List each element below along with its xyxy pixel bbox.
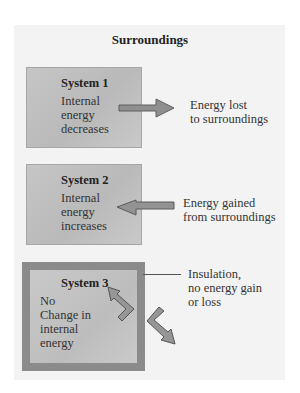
system-3-title: System 3 [61,276,109,291]
energy-lost-label: Energy lost to surroundings [190,98,268,126]
blocked-energy-inner-arrow-icon [106,286,140,324]
energy-gained-label: Energy gained from surroundings [183,196,276,224]
system-2-description: Internal energy increases [61,191,107,233]
system-1-description: Internal energy decreases [61,94,109,136]
system-3-description: No Change in internal energy [40,294,91,350]
system-2-title: System 2 [61,173,109,188]
surroundings-title: Surroundings [0,32,300,48]
system-1-title: System 1 [61,76,109,91]
blocked-energy-outer-arrow-icon [146,306,180,346]
energy-out-arrow-icon [118,98,178,120]
insulation-label: Insulation, no energy gain or loss [188,267,262,309]
energy-in-arrow-icon [116,197,176,219]
insulation-leader-line [143,274,181,275]
